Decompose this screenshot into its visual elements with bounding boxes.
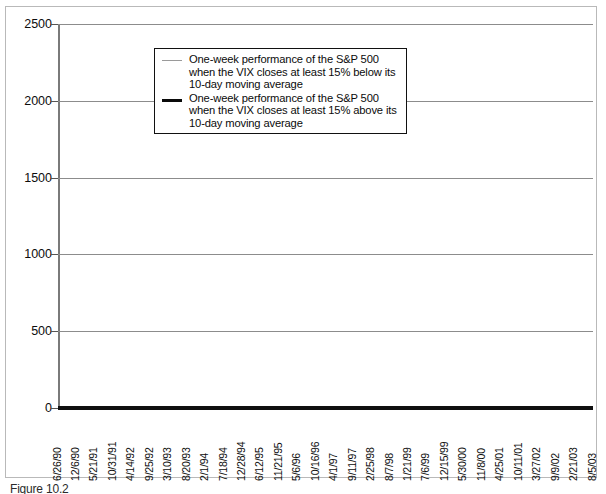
figure-container: 05001000150020002500 One-week performanc… (0, 0, 606, 494)
legend-item-above: One-week performance of the S&P 500 when… (160, 92, 401, 130)
legend-label-below-line1: One-week performance of the S&P 500 (189, 53, 379, 65)
x-axis-line (58, 406, 593, 410)
x-tick-label-3-10-93: 3/10/93 (161, 447, 173, 481)
legend-label-below-line2: when the VIX closes at least 15% below i… (189, 66, 395, 78)
legend-label-above-line2: when the VIX closes at least 15% above i… (189, 104, 397, 116)
chart-legend: One-week performance of the S&P 500 when… (154, 48, 407, 134)
x-tick-label-10-16-96: 10/16/96 (309, 442, 321, 481)
x-tick-label-12-6-90: 12/6/90 (69, 447, 81, 481)
legend-label-below: One-week performance of the S&P 500 when… (189, 53, 395, 91)
x-tick-label-9-25-92: 9/25/92 (143, 447, 155, 481)
y-tick-2500 (51, 24, 58, 25)
y-tick-label-2500: 2500 (24, 17, 52, 31)
x-tick-label-7-18-94: 7/18/94 (217, 447, 229, 481)
x-tick-label-4-14-92: 4/14/92 (124, 447, 136, 481)
x-tick-label-6-12-95: 6/12/95 (253, 447, 265, 481)
x-tick-label-8-20-93: 8/20/93 (180, 447, 192, 481)
gridline-500 (58, 331, 593, 332)
x-tick-label-11-21-95: 11/21/95 (272, 443, 284, 482)
gridline-2500 (58, 24, 593, 25)
x-tick-label-10-11-01: 10/11/01 (512, 443, 524, 482)
x-tick-label-7-6-99: 7/6/99 (419, 453, 431, 481)
y-tick-1000 (51, 254, 58, 255)
legend-swatch-thick-line-icon (160, 93, 184, 123)
gridline-1500 (58, 178, 593, 179)
y-tick-label-1000: 1000 (24, 247, 52, 261)
x-tick-label-8-5-03: 8/5/03 (586, 453, 598, 481)
x-tick-label-9-9-02: 9/9/02 (549, 453, 561, 481)
x-tick-label-4-25-01: 4/25/01 (493, 447, 505, 481)
legend-label-above: One-week performance of the S&P 500 when… (189, 92, 397, 130)
x-tick-label-1-21-99: 1/21/99 (401, 447, 413, 481)
y-tick-label-500: 500 (31, 324, 52, 338)
figure-caption: Figure 10.2 (10, 482, 69, 494)
legend-swatch-thin-line-icon (160, 54, 184, 84)
x-tick-label-9-11-97: 9/11/97 (346, 448, 358, 481)
plot-area: One-week performance of the S&P 500 when… (58, 24, 593, 408)
y-axis-labels: 05001000150020002500 (6, 24, 52, 408)
figure-frame: 05001000150020002500 One-week performanc… (5, 6, 597, 478)
gridline-1000 (58, 254, 593, 255)
x-tick-label-2-1-94: 2/1/94 (198, 453, 210, 481)
x-tick-label-2-25-98: 2/25/98 (364, 447, 376, 481)
x-tick-label-12-15-99: 12/15/99 (438, 442, 450, 481)
y-tick-500 (51, 331, 58, 332)
y-tick-2000 (51, 101, 58, 102)
x-tick-label-4-1-97: 4/1/97 (327, 453, 339, 481)
x-tick-label-6-26-90: 6/26/90 (51, 447, 63, 481)
x-tick-label-5-21-91: 5/21/91 (87, 447, 99, 481)
y-tick-0 (51, 408, 58, 409)
x-axis-labels: 6/26/9012/6/905/21/9110/31/914/14/929/25… (58, 411, 593, 481)
x-tick-label-5-30-00: 5/30/00 (456, 447, 468, 481)
legend-label-below-line3: 10-day moving average (189, 78, 303, 90)
y-tick-1500 (51, 178, 58, 179)
x-tick-label-2-21-03: 2/21/03 (567, 447, 579, 481)
x-tick-label-5-6-96: 5/6/96 (290, 453, 302, 481)
x-tick-label-3-27-02: 3/27/02 (530, 447, 542, 481)
y-tick-label-1500: 1500 (24, 171, 52, 185)
legend-label-above-line3: 10-day moving average (189, 117, 303, 129)
y-tick-label-2000: 2000 (24, 94, 52, 108)
legend-item-below: One-week performance of the S&P 500 when… (160, 53, 401, 91)
legend-label-above-line1: One-week performance of the S&P 500 (189, 92, 379, 104)
x-tick-label-10-31-91: 10/31/91 (106, 442, 118, 481)
x-tick-label-11-8-00: 11/8/00 (475, 448, 487, 481)
y-axis-line (58, 24, 60, 408)
x-tick-label-8-7-98: 8/7/98 (383, 453, 395, 481)
x-tick-label-12-28-94: 12/28/94 (235, 442, 247, 481)
